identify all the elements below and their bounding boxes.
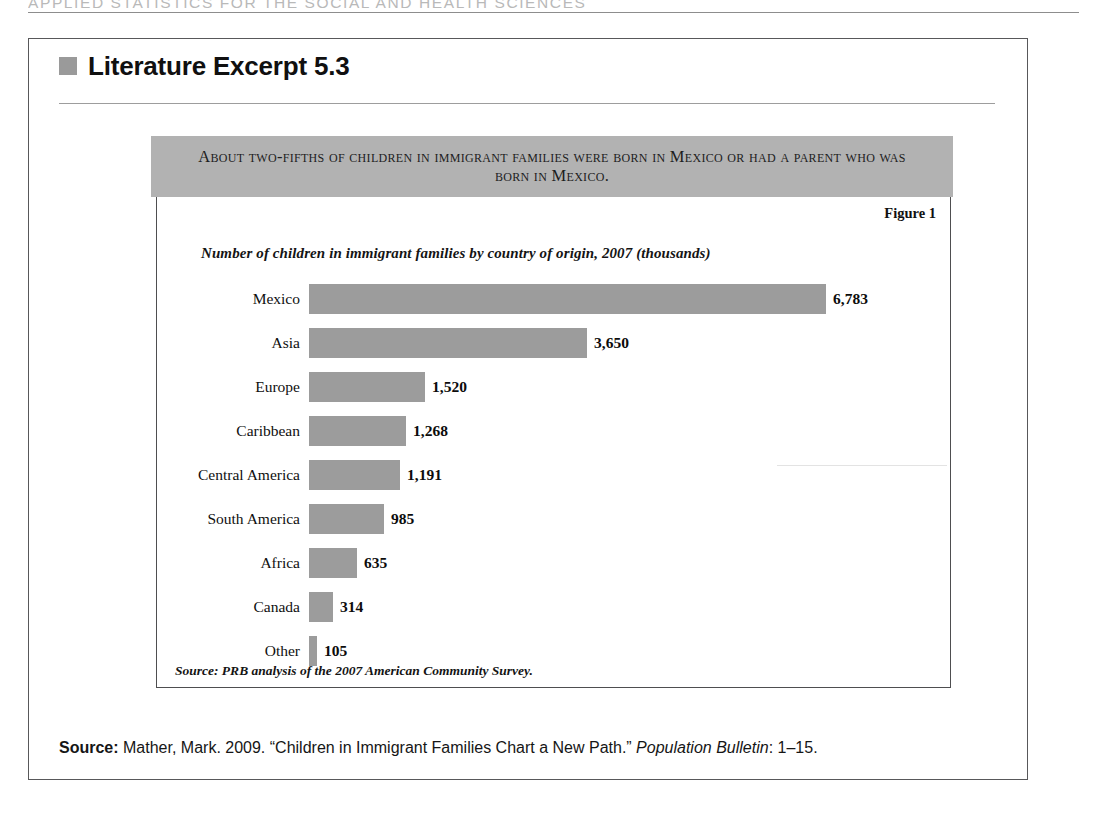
bar-rect xyxy=(309,636,317,666)
bottom-source-text-before: Mather, Mark. 2009. “Children in Immigra… xyxy=(119,739,637,756)
literature-excerpt-box: Literature Excerpt 5.3 About two-fifths … xyxy=(28,38,1028,780)
bar-category-label: South America xyxy=(157,510,309,528)
bar-category-label: Europe xyxy=(157,378,309,396)
figure-number: Figure 1 xyxy=(884,205,936,222)
bar-category-label: Caribbean xyxy=(157,422,309,440)
excerpt-divider xyxy=(59,103,995,104)
excerpt-header: Literature Excerpt 5.3 xyxy=(59,53,350,79)
figure-banner: About two-fifths of children in immigran… xyxy=(151,136,953,197)
bar-category-label: Central America xyxy=(157,466,309,484)
bar-value-label: 1,268 xyxy=(406,422,448,440)
bar-wrap: 1,191 xyxy=(309,460,952,490)
bar-category-label: Africa xyxy=(157,554,309,572)
figure-banner-text: About two-fifths of children in immigran… xyxy=(185,147,919,185)
chart-source: Source: PRB analysis of the 2007 America… xyxy=(175,663,533,679)
bar-row: Africa635 xyxy=(157,541,952,585)
bar-rect xyxy=(309,416,406,446)
bar-rect xyxy=(309,504,384,534)
bar-wrap: 3,650 xyxy=(309,328,952,358)
bar-wrap: 635 xyxy=(309,548,952,578)
bar-row: Asia3,650 xyxy=(157,321,952,365)
chart-subtitle: Number of children in immigrant families… xyxy=(201,245,711,262)
bar-row: South America985 xyxy=(157,497,952,541)
bar-wrap: 1,520 xyxy=(309,372,952,402)
bar-row: Mexico6,783 xyxy=(157,277,952,321)
bar-rect xyxy=(309,460,400,490)
bar-row: Europe1,520 xyxy=(157,365,952,409)
bar-category-label: Asia xyxy=(157,334,309,352)
figure-block: About two-fifths of children in immigran… xyxy=(151,136,953,688)
bar-rect xyxy=(309,372,425,402)
bar-rect xyxy=(309,548,357,578)
bar-row: Central America1,191 xyxy=(157,453,952,497)
bar-rect xyxy=(309,592,333,622)
bottom-source-journal: Population Bulletin xyxy=(636,739,769,756)
running-head: APPLIED STATISTICS FOR THE SOCIAL AND HE… xyxy=(28,0,1079,16)
bar-row: Canada314 xyxy=(157,585,952,629)
bar-rect xyxy=(309,328,587,358)
bar-category-label: Canada xyxy=(157,598,309,616)
bar-wrap: 1,268 xyxy=(309,416,952,446)
bar-chart: Mexico6,783Asia3,650Europe1,520Caribbean… xyxy=(157,277,952,673)
bar-wrap: 314 xyxy=(309,592,952,622)
excerpt-title: Literature Excerpt 5.3 xyxy=(88,53,350,79)
bar-value-label: 6,783 xyxy=(826,290,868,308)
square-bullet-icon xyxy=(59,57,77,75)
bar-category-label: Other xyxy=(157,642,309,660)
bar-rect xyxy=(309,284,826,314)
bar-value-label: 314 xyxy=(333,598,363,616)
bar-row: Caribbean1,268 xyxy=(157,409,952,453)
bar-wrap: 985 xyxy=(309,504,952,534)
bottom-source: Source: Mather, Mark. 2009. “Children in… xyxy=(59,739,818,757)
bar-category-label: Mexico xyxy=(157,290,309,308)
bar-wrap: 6,783 xyxy=(309,284,952,314)
running-head-text: APPLIED STATISTICS FOR THE SOCIAL AND HE… xyxy=(28,0,1079,10)
bar-value-label: 985 xyxy=(384,510,414,528)
bar-value-label: 1,520 xyxy=(425,378,467,396)
bar-value-label: 635 xyxy=(357,554,387,572)
bar-wrap: 105 xyxy=(309,636,952,666)
bar-value-label: 105 xyxy=(317,642,347,660)
bar-value-label: 3,650 xyxy=(587,334,629,352)
figure-panel: Figure 1 Number of children in immigrant… xyxy=(156,197,951,688)
running-head-rule xyxy=(28,12,1079,13)
bar-value-label: 1,191 xyxy=(400,466,442,484)
bottom-source-label: Source: xyxy=(59,739,119,756)
bottom-source-text-after: : 1–15. xyxy=(769,739,818,756)
